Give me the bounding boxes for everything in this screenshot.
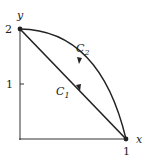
x-axis-label: x	[136, 133, 143, 146]
arrow-c2-icon	[77, 57, 82, 64]
x-tick-label-1: 1	[123, 145, 130, 158]
y-tick-label-2: 2	[5, 23, 12, 36]
c2-label: C2	[76, 42, 90, 57]
diagram-canvas: y 2 1 x 1 C2 C1	[0, 0, 145, 162]
y-axis-label: y	[16, 9, 24, 22]
point-1-0	[124, 137, 129, 142]
point-0-2	[18, 27, 23, 32]
y-tick-label-1: 1	[6, 78, 13, 91]
c1-label: C1	[56, 85, 70, 100]
